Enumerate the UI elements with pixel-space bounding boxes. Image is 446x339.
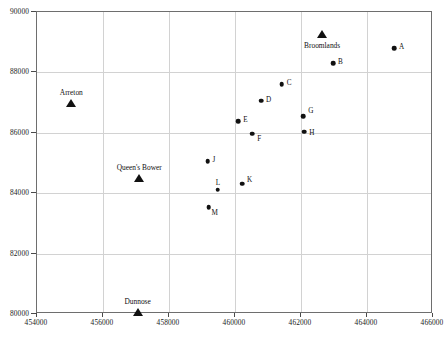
data-point-F[interactable] [250,131,255,136]
x-axis-tick-label: 462000 [289,318,312,327]
x-axis-tick [168,313,169,317]
gridline-vertical [367,12,368,312]
gridline-horizontal [37,254,431,255]
y-axis-tick-label: 86000 [10,127,29,136]
y-axis-tick-label: 84000 [10,188,29,197]
x-axis-tick-label: 454000 [25,318,48,327]
gridline-horizontal [37,193,431,194]
site-label: Queen's Bower [117,163,162,172]
x-axis-tick [234,313,235,317]
data-point-G[interactable] [301,114,306,119]
x-axis-tick [36,313,37,317]
data-point-label-D: D [266,96,271,104]
data-point-label-M: M [212,209,218,217]
y-axis-tick-label: 90000 [10,7,29,16]
data-point-A[interactable] [392,46,397,51]
y-axis-tick [31,132,36,133]
site-marker-triangle[interactable] [134,174,144,182]
x-axis-tick-label: 464000 [355,318,378,327]
site-marker-triangle[interactable] [133,308,143,316]
data-point-label-G: G [308,107,313,115]
x-axis-tick-label: 456000 [91,318,114,327]
y-axis-tick [31,192,36,193]
data-point-C[interactable] [280,82,285,87]
data-point-J[interactable] [205,159,210,164]
y-axis-tick-label: 82000 [10,248,29,257]
x-axis-tick [366,313,367,317]
site-label: Broomlands [304,41,340,50]
data-point-label-H: H [309,129,314,137]
data-point-K[interactable] [240,181,245,186]
site-label: Dunnose [124,297,150,306]
x-axis-tick [432,313,433,317]
gridline-vertical [169,12,170,312]
data-point-label-F: F [257,135,261,143]
y-axis-tick [31,313,36,314]
x-axis-tick-label: 460000 [223,318,246,327]
data-point-L[interactable] [216,187,221,192]
site-marker-triangle[interactable] [317,30,327,38]
data-point-label-B: B [338,58,343,66]
x-axis-tick [102,313,103,317]
data-point-label-L: L [216,179,220,187]
data-point-B[interactable] [331,61,336,66]
y-axis-tick [31,71,36,72]
gridline-vertical [235,12,236,312]
data-point-label-J: J [213,156,216,164]
y-axis-tick-label: 80000 [10,309,29,318]
data-point-D[interactable] [259,98,264,103]
gridline-vertical [301,12,302,312]
gridline-vertical [103,12,104,312]
site-label: Arreton [60,88,83,97]
x-axis-tick [300,313,301,317]
plot-area [36,11,432,313]
gridline-horizontal [37,133,431,134]
data-point-label-A: A [399,43,404,51]
site-marker-triangle[interactable] [66,99,76,107]
data-point-label-C: C [287,79,292,87]
x-axis-tick-label: 458000 [157,318,180,327]
y-axis-tick [31,11,36,12]
data-point-label-K: K [247,176,252,184]
data-point-M[interactable] [206,205,211,210]
data-point-H[interactable] [302,130,307,135]
gridline-horizontal [37,72,431,73]
data-point-E[interactable] [236,119,241,124]
y-axis-tick [31,253,36,254]
data-point-label-E: E [243,116,247,124]
x-axis-tick-label: 466000 [421,318,444,327]
y-axis-tick-label: 88000 [10,67,29,76]
scatter-chart: 4540004560004580004600004620004640004660… [0,0,446,339]
